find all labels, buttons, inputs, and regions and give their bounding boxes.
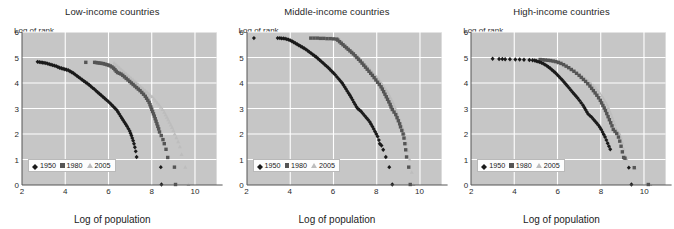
x-axis-tick-label: 10: [413, 187, 427, 196]
data-point: [315, 36, 318, 39]
data-point: [604, 109, 607, 112]
y-axis-tick-label: 1: [454, 155, 468, 164]
x-axis-tick-label: 4: [58, 187, 72, 196]
legend-item-label: 1950: [489, 162, 505, 169]
legend-item-label: 1980: [516, 162, 532, 169]
y-axis-tick-label: 2: [454, 130, 468, 139]
y-axis-tick-label: 3: [5, 104, 19, 113]
y-axis-tick-label: 5: [230, 53, 244, 62]
data-point: [160, 134, 163, 137]
legend-item-2005[interactable]: 2005: [311, 162, 335, 169]
plot-area: 0123456246810195019802005: [225, 0, 450, 229]
square-marker-icon: [60, 163, 65, 168]
data-point: [609, 121, 612, 124]
chart-legend: 195019802005: [253, 159, 341, 172]
y-axis-tick-label: 5: [454, 53, 468, 62]
y-axis-tick-label: 1: [5, 155, 19, 164]
data-point: [621, 150, 624, 153]
chart-legend: 195019802005: [28, 159, 116, 172]
data-point: [404, 155, 407, 158]
plot-area: 0123456246810195019802005: [0, 0, 225, 229]
data-point: [615, 132, 618, 135]
x-axis-tick-label: 10: [188, 187, 202, 196]
legend-item-2005[interactable]: 2005: [87, 162, 111, 169]
x-axis-tick-label: 8: [594, 187, 608, 196]
legend-item-label: 2005: [95, 162, 111, 169]
rank-size-chart-figure: Low-income countries Log of rank 0123456…: [0, 0, 674, 229]
diamond-marker-icon: [481, 161, 487, 167]
x-axis-tick-label: 2: [464, 187, 478, 196]
x-axis-tick-label: 6: [101, 187, 115, 196]
legend-item-1950[interactable]: 1950: [32, 162, 56, 169]
x-axis-label: Log of population: [449, 214, 674, 225]
data-point: [166, 156, 169, 159]
data-point: [158, 130, 161, 133]
triangle-marker-icon: [536, 163, 542, 168]
triangle-marker-icon: [87, 163, 93, 168]
data-point: [157, 127, 160, 130]
data-point: [312, 36, 315, 39]
diamond-marker-icon: [257, 161, 263, 167]
x-axis-tick-label: 4: [507, 187, 521, 196]
data-point: [403, 142, 406, 145]
y-axis-tick-label: 6: [454, 28, 468, 37]
data-point: [325, 37, 328, 40]
legend-item-1980[interactable]: 1980: [509, 162, 532, 169]
data-point: [401, 132, 404, 135]
data-point: [318, 37, 321, 40]
legend-item-label: 1980: [291, 162, 307, 169]
data-point: [408, 183, 411, 186]
legend-item-1980[interactable]: 1980: [285, 162, 308, 169]
x-axis-tick-label: 2: [15, 187, 29, 196]
data-point: [164, 148, 167, 151]
data-point: [404, 148, 407, 151]
legend-item-1950[interactable]: 1950: [481, 162, 505, 169]
chart-panel: Low-income countries Log of rank 0123456…: [0, 0, 225, 229]
chart-legend: 195019802005: [477, 159, 565, 172]
x-axis-tick-label: 6: [551, 187, 565, 196]
data-point: [623, 157, 626, 160]
square-marker-icon: [509, 163, 514, 168]
legend-item-label: 1950: [265, 162, 281, 169]
data-point: [309, 36, 312, 39]
data-point: [647, 183, 650, 186]
data-point: [322, 37, 325, 40]
y-axis-tick-label: 3: [454, 104, 468, 113]
data-point: [396, 119, 399, 122]
x-axis-label: Log of population: [0, 214, 225, 225]
x-axis-tick-label: 8: [145, 187, 159, 196]
y-axis-tick-label: 3: [230, 104, 244, 113]
data-point: [607, 115, 610, 118]
y-axis-tick-label: 4: [5, 79, 19, 88]
legend-item-1950[interactable]: 1950: [257, 162, 281, 169]
data-point: [84, 61, 87, 64]
y-axis-tick-label: 5: [5, 53, 19, 62]
data-point: [605, 112, 608, 115]
x-axis-tick-label: 6: [326, 187, 340, 196]
data-point: [328, 37, 331, 40]
legend-item-label: 1950: [40, 162, 56, 169]
data-point: [331, 37, 334, 40]
data-point: [394, 113, 397, 116]
chart-panel: Middle-income countries Log of rank 0123…: [225, 0, 450, 229]
square-marker-icon: [285, 163, 290, 168]
x-axis-tick-label: 8: [369, 187, 383, 196]
x-axis-tick-label: 2: [240, 187, 254, 196]
x-axis-label: Log of population: [225, 214, 450, 225]
y-axis-tick-label: 4: [454, 79, 468, 88]
data-point: [618, 139, 621, 142]
y-axis-tick-label: 2: [5, 130, 19, 139]
data-point: [398, 122, 401, 125]
legend-item-label: 1980: [67, 162, 83, 169]
data-point: [400, 129, 403, 132]
y-axis-tick-label: 1: [230, 155, 244, 164]
data-point: [395, 116, 398, 119]
data-point: [608, 118, 611, 121]
legend-item-label: 2005: [319, 162, 335, 169]
legend-item-1980[interactable]: 1980: [60, 162, 83, 169]
y-axis-tick-label: 4: [230, 79, 244, 88]
legend-item-2005[interactable]: 2005: [536, 162, 560, 169]
triangle-marker-icon: [311, 163, 317, 168]
y-axis-tick-label: 6: [5, 28, 19, 37]
plot-area: 0123456246810195019802005: [449, 0, 674, 229]
